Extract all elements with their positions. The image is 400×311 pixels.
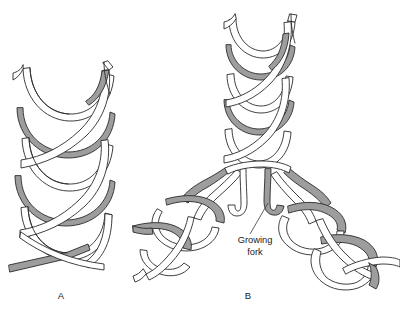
growing-fork-label-line2: fork [247,247,263,257]
growing-fork-label-line1: Growing [238,235,273,245]
dna-replication-figure: A [0,0,400,311]
stem-end-top-right [288,14,297,22]
figure-canvas: A [0,0,400,311]
panel-b-label: B [245,290,252,301]
panel-a-label: A [58,290,65,301]
